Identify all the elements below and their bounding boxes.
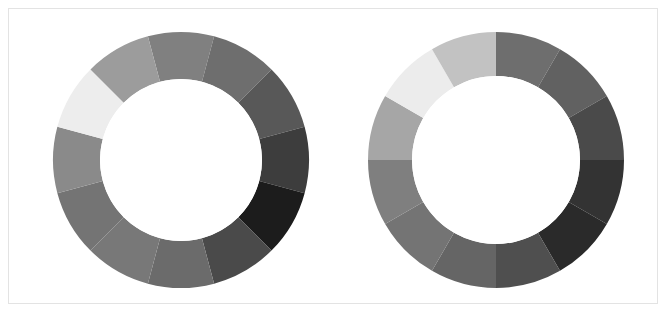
right-donut [368, 32, 624, 288]
donut-hole [100, 79, 262, 241]
donut-charts-svg [0, 0, 668, 314]
left-donut [53, 32, 309, 288]
donut-hole [412, 76, 580, 244]
figure-canvas [0, 0, 668, 314]
